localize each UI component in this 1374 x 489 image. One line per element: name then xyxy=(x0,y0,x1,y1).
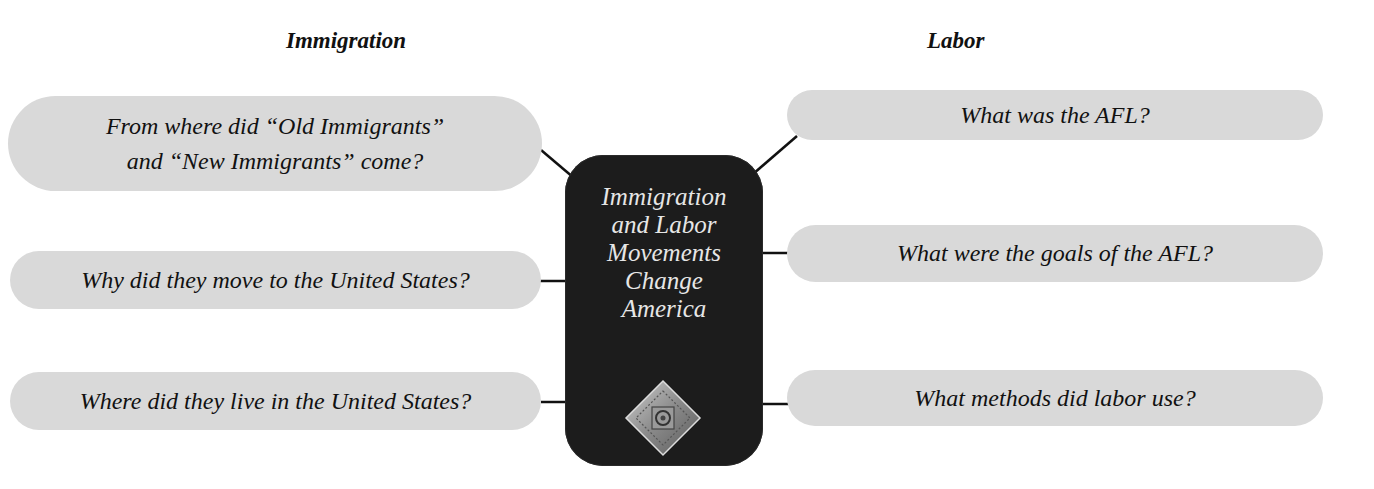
connector-right-1 xyxy=(753,136,797,174)
question-goals-of-afl: What were the goals of the AFL? xyxy=(787,225,1323,282)
question-where-live: Where did they live in the United States… xyxy=(10,372,541,430)
title-line: Change xyxy=(565,267,763,295)
title-line: Immigration xyxy=(565,183,763,211)
title-line: America xyxy=(565,295,763,323)
heading-immigration: Immigration xyxy=(286,28,406,54)
question-line-2: and “New Immigrants” come? xyxy=(127,144,424,179)
central-topic-title: Immigration and Labor Movements Change A… xyxy=(565,183,763,323)
title-line: and Labor xyxy=(565,211,763,239)
question-labor-methods: What methods did labor use? xyxy=(787,370,1323,426)
central-topic-box: Immigration and Labor Movements Change A… xyxy=(565,155,763,466)
question-origin-of-immigrants: From where did “Old Immigrants” and “New… xyxy=(8,96,542,191)
ornamental-diamond-emblem-icon xyxy=(624,379,702,457)
heading-labor: Labor xyxy=(927,28,985,54)
question-line-1: From where did “Old Immigrants” xyxy=(106,109,444,144)
question-why-move: Why did they move to the United States? xyxy=(10,251,541,309)
question-what-was-afl: What was the AFL? xyxy=(787,90,1323,140)
title-line: Movements xyxy=(565,239,763,267)
